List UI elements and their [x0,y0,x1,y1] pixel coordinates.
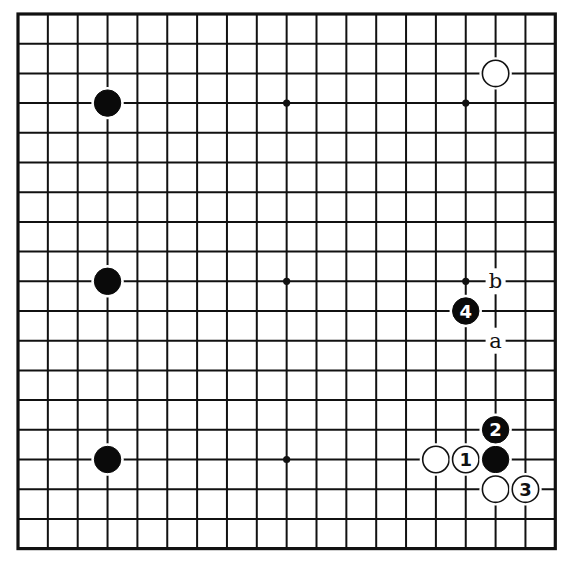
white-stone-icon [482,60,508,86]
move-number: 3 [519,479,532,500]
black-stone [479,443,511,475]
star-point [283,278,290,285]
star-point [462,278,469,285]
black-stone-icon [94,90,120,116]
black-stone [91,443,123,475]
star-point [283,100,290,107]
white-stone [479,57,511,89]
marker-b: b [486,268,506,294]
go-board: ba 1234 [0,0,564,570]
black-stone-move-2: 2 [479,414,511,446]
white-stone [420,443,452,475]
white-stone-icon [482,476,508,502]
white-stone-move-1: 1 [450,443,482,475]
black-stone-icon [94,446,120,472]
black-stone-move-4: 4 [450,295,482,327]
white-stone-icon [423,446,449,472]
star-point [462,100,469,107]
black-stone-icon [482,446,508,472]
move-number: 4 [459,301,472,322]
black-stone [91,265,123,297]
black-stone-icon [94,268,120,294]
star-point [283,456,290,463]
white-stone [479,473,511,505]
white-stone-move-3: 3 [509,473,541,505]
marker-label: a [489,329,502,353]
black-stone [91,87,123,119]
marker-a: a [486,328,506,354]
move-number: 2 [489,419,502,440]
marker-label: b [489,269,502,293]
move-number: 1 [459,449,472,470]
go-board-diagram: ba 1234 [0,0,564,570]
